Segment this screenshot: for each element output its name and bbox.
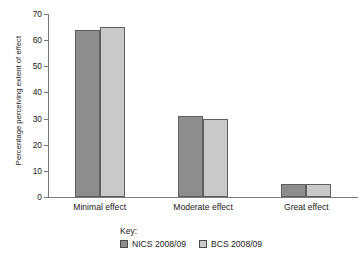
bar-moderate-effect-bcs <box>203 119 228 197</box>
x-axis-label-minimal-effect: Minimal effect <box>40 202 160 212</box>
legend-title: Key: <box>120 226 137 236</box>
legend-item: NICS 2008/09 <box>120 239 186 249</box>
y-axis-tick-label: 50 <box>2 62 42 70</box>
bar-great-effect-bcs <box>306 184 331 197</box>
legend-item: BCS 2008/09 <box>199 239 262 249</box>
x-axis-label-great-effect: Great effect <box>246 202 363 212</box>
y-axis-tick-label: 40 <box>2 88 42 96</box>
y-axis-tick-label: 0 <box>2 193 42 201</box>
legend-swatch-icon <box>199 240 207 248</box>
bar-moderate-effect-nics <box>178 116 203 197</box>
plot-area <box>48 14 358 197</box>
legend-swatch-icon <box>120 240 128 248</box>
legend-label: NICS 2008/09 <box>132 239 186 249</box>
y-axis-tick-label: 20 <box>2 141 42 149</box>
bar-minimal-effect-bcs <box>100 27 125 197</box>
bar-chart: Percentage perceiving extent of effect 0… <box>0 0 363 260</box>
x-axis-line <box>48 197 358 198</box>
y-axis-tick-label: 60 <box>2 36 42 44</box>
legend-label: BCS 2008/09 <box>211 239 262 249</box>
bar-great-effect-nics <box>281 184 306 197</box>
y-axis-tick-label: 70 <box>2 10 42 18</box>
x-axis-label-moderate-effect: Moderate effect <box>143 202 263 212</box>
y-axis-tick-label: 30 <box>2 115 42 123</box>
y-axis-tick-label: 10 <box>2 167 42 175</box>
y-axis-tick <box>44 197 49 198</box>
bar-minimal-effect-nics <box>75 30 100 197</box>
legend-item-list: NICS 2008/09BCS 2008/09 <box>120 239 262 249</box>
